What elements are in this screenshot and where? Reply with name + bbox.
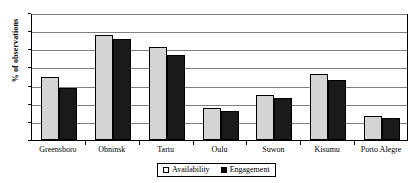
x-axis-tick-mark [354, 141, 355, 145]
legend-label: Availability [172, 165, 210, 174]
bar-engagement-porto-alegre [382, 118, 400, 140]
bar-group [310, 15, 346, 140]
chart-legend: AvailabilityEngagement [157, 163, 276, 177]
bar-group [256, 15, 292, 140]
bar-availability-oulu [203, 108, 221, 140]
legend-swatch-avail [163, 167, 169, 173]
bar-group [95, 15, 131, 140]
bar-engagement-tartu [167, 55, 185, 140]
legend-swatch-engage [221, 167, 227, 173]
x-axis-tick-mark [193, 141, 194, 145]
bar-availability-kisumu [310, 74, 328, 140]
bar-chart: % of observations 02468101214 Greensboro… [0, 0, 420, 183]
bar-availability-obninsk [95, 35, 113, 140]
bar-series-container [32, 15, 407, 140]
bar-engagement-kisumu [328, 80, 346, 140]
bar-group [41, 15, 77, 140]
bar-availability-porto-alegre [364, 116, 382, 140]
bar-engagement-greensboro [59, 88, 77, 140]
bar-availability-suwon [256, 95, 274, 140]
x-axis-tick-mark [139, 141, 140, 145]
legend-item: Engagement [221, 165, 270, 174]
x-axis-tick-mark [246, 141, 247, 145]
bar-engagement-oulu [221, 111, 239, 140]
legend-item: Availability [163, 165, 210, 174]
bar-engagement-suwon [274, 98, 292, 140]
bar-group [203, 15, 239, 140]
bar-availability-greensboro [41, 77, 59, 140]
bar-group [364, 15, 400, 140]
bar-engagement-obninsk [113, 39, 131, 140]
bar-group [149, 15, 185, 140]
x-axis-tick-label: Porto Alegre [336, 145, 420, 155]
x-axis-tick-mark [85, 141, 86, 145]
y-axis-title: % of observations [11, 1, 20, 101]
plot-area [31, 14, 408, 141]
bar-availability-tartu [149, 47, 167, 140]
x-axis-tick-mark [300, 141, 301, 145]
legend-label: Engagement [230, 165, 270, 174]
